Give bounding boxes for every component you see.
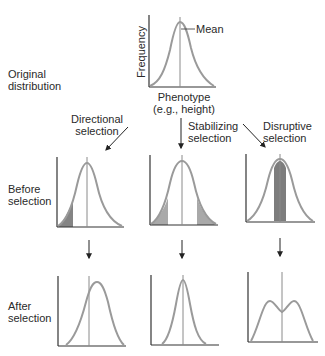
before-disruptive-plot: [246, 154, 315, 222]
before-directional-plot: [57, 157, 124, 227]
after-disruptive-plot: [248, 272, 318, 342]
row-label-before: Before selection: [8, 183, 51, 207]
arrow-disruptive: [243, 124, 265, 147]
mean-label: Mean: [196, 23, 224, 35]
y-axis-label: Frequency: [135, 26, 147, 78]
after-directional-plot: [58, 276, 126, 346]
shaded-left-tail: [58, 200, 73, 227]
label-directional-selection: Directional selection: [71, 113, 123, 137]
x-axis-label: Phenotype (e.g., height): [150, 91, 218, 115]
row-label-after: After selection: [8, 300, 51, 324]
after-stabilizing-plot: [151, 275, 219, 345]
label-disruptive-selection: Disruptive selection: [263, 120, 312, 144]
label-stabilizing-selection: Stabilizing selection: [188, 120, 238, 144]
row-label-original: Original distribution: [8, 68, 61, 92]
before-stabilizing-plot: [150, 155, 218, 225]
